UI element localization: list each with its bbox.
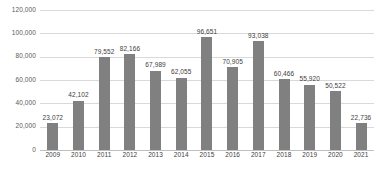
bar[interactable] [253,41,264,150]
bar-slot: 82,166 [117,10,143,150]
bar[interactable] [150,71,161,150]
bar-slot: 55,920 [297,10,323,150]
bar-slot: 93,038 [246,10,272,150]
y-axis-tick-label: 120,000 [12,7,36,14]
y-axis-tick-label: 20,000 [16,123,36,130]
bar-value-label: 62,055 [171,69,191,76]
plot-area: 23,07242,10279,55282,16667,98962,05596,6… [40,10,374,150]
bar-chart: 020,00040,00060,00080,000100,000120,000 … [0,0,378,182]
bar[interactable] [47,123,58,150]
bar-series: 23,07242,10279,55282,16667,98962,05596,6… [40,10,374,150]
y-axis: 020,00040,00060,00080,000100,000120,000 [0,0,40,182]
bar-value-label: 22,736 [351,115,371,122]
bar[interactable] [330,91,341,150]
bar[interactable] [356,123,367,150]
x-axis-tick-label: 2013 [143,152,169,166]
x-axis-tick-label: 2009 [40,152,66,166]
bar-slot: 62,055 [168,10,194,150]
bar-value-label: 79,552 [94,49,114,56]
bar-slot: 67,989 [143,10,169,150]
x-axis-tick-label: 2010 [66,152,92,166]
bar-value-label: 23,072 [43,115,63,122]
bar-value-label: 55,920 [299,76,319,83]
x-axis-tick-label: 2019 [297,152,323,166]
bar-slot: 70,905 [220,10,246,150]
y-axis-tick-label: 40,000 [16,100,36,107]
x-axis: 2009201020112012201320142015201620172018… [40,152,374,166]
x-axis-tick-label: 2020 [323,152,349,166]
bar[interactable] [279,79,290,150]
y-axis-tick-label: 100,000 [12,30,36,37]
bar-slot: 50,522 [323,10,349,150]
x-axis-tick-label: 2021 [348,152,374,166]
y-axis-tick-label: 60,000 [16,77,36,84]
x-axis-tick-label: 2016 [220,152,246,166]
bar[interactable] [227,67,238,150]
x-axis-tick-label: 2015 [194,152,220,166]
bar-value-label: 70,905 [222,59,242,66]
bar-value-label: 50,522 [325,83,345,90]
bar-value-label: 67,989 [145,62,165,69]
bar[interactable] [73,101,84,150]
bar-value-label: 60,466 [274,71,294,78]
bar[interactable] [99,57,110,150]
x-axis-tick-label: 2018 [271,152,297,166]
bar-slot: 79,552 [91,10,117,150]
y-axis-tick-label: 80,000 [16,53,36,60]
bar[interactable] [201,37,212,150]
x-axis-tick-label: 2014 [168,152,194,166]
bar-slot: 60,466 [271,10,297,150]
bar-value-label: 93,038 [248,33,268,40]
bar[interactable] [176,78,187,150]
y-axis-tick-label: 0 [32,147,36,154]
x-axis-tick-label: 2011 [91,152,117,166]
x-axis-tick-label: 2012 [117,152,143,166]
bar-slot: 22,736 [348,10,374,150]
bar-value-label: 82,166 [120,46,140,53]
x-axis-tick-label: 2017 [246,152,272,166]
bar-slot: 42,102 [66,10,92,150]
bar[interactable] [304,85,315,150]
bar-value-label: 96,651 [197,29,217,36]
bar[interactable] [124,54,135,150]
bar-value-label: 42,102 [68,92,88,99]
bar-slot: 23,072 [40,10,66,150]
bar-slot: 96,651 [194,10,220,150]
